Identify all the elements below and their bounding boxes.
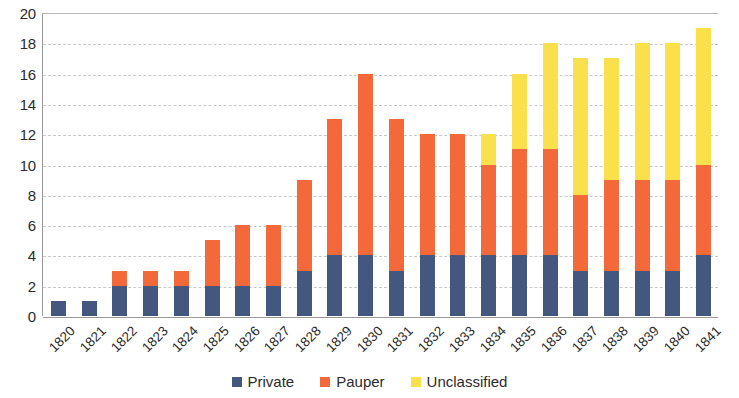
legend-item[interactable]: Private <box>232 374 295 389</box>
bar-segment-pauper <box>543 149 558 255</box>
bar-segment-pauper <box>420 134 435 255</box>
legend-item[interactable]: Pauper <box>320 374 384 389</box>
y-tick-label: 8 <box>2 187 36 202</box>
bar-segment-unclassified <box>604 58 619 179</box>
bar-segment-pauper <box>665 180 680 271</box>
bar-segment-pauper <box>635 180 650 271</box>
bar-column[interactable] <box>543 43 558 316</box>
bar-column[interactable] <box>665 43 680 316</box>
bar-segment-pauper <box>205 240 220 285</box>
bar-column[interactable] <box>297 180 312 316</box>
plot-area <box>42 13 718 316</box>
bar-segment-private <box>143 286 158 316</box>
bar-segment-unclassified <box>573 58 588 194</box>
bar-segment-unclassified <box>635 43 650 179</box>
bar-segment-pauper <box>573 195 588 271</box>
x-tick-label: 1829 <box>324 324 355 355</box>
y-tick-label: 6 <box>2 218 36 233</box>
bar-column[interactable] <box>450 134 465 316</box>
bar-segment-pauper <box>512 149 527 255</box>
x-tick-label: 1837 <box>569 324 600 355</box>
bar-segment-private <box>604 271 619 316</box>
bar-segment-unclassified <box>665 43 680 179</box>
x-tick-label: 1825 <box>201 324 232 355</box>
bar-column[interactable] <box>573 58 588 316</box>
x-tick-label: 1820 <box>47 324 78 355</box>
bar-segment-pauper <box>297 180 312 271</box>
x-axis: 1820182118221823182418251826182718281829… <box>42 316 718 376</box>
bar-segment-private <box>297 271 312 316</box>
bar-segment-private <box>543 255 558 316</box>
legend-label: Private <box>248 374 295 389</box>
bar-column[interactable] <box>266 225 281 316</box>
bar-segment-pauper <box>112 271 127 286</box>
bar-column[interactable] <box>635 43 650 316</box>
bar-segment-private <box>512 255 527 316</box>
bar-column[interactable] <box>174 271 189 316</box>
x-tick-label: 1822 <box>109 324 140 355</box>
bar-segment-pauper <box>174 271 189 286</box>
x-tick-label: 1830 <box>354 324 385 355</box>
legend-swatch-icon <box>320 377 330 387</box>
y-tick-label: 18 <box>2 36 36 51</box>
x-tick-label: 1836 <box>539 324 570 355</box>
legend-label: Unclassified <box>427 374 508 389</box>
bar-segment-private <box>635 271 650 316</box>
legend-swatch-icon <box>232 377 242 387</box>
bar-segment-private <box>327 255 342 316</box>
bar-column[interactable] <box>512 74 527 316</box>
bar-segment-unclassified <box>696 28 711 164</box>
bar-segment-pauper <box>389 119 404 271</box>
bar-segment-pauper <box>266 225 281 286</box>
y-tick-label: 0 <box>2 309 36 324</box>
legend-item[interactable]: Unclassified <box>411 374 508 389</box>
x-tick-label: 1834 <box>477 324 508 355</box>
bar-column[interactable] <box>420 134 435 316</box>
y-axis: 20181614121086420 <box>0 13 36 316</box>
bar-column[interactable] <box>389 119 404 316</box>
bar-column[interactable] <box>51 301 66 316</box>
x-tick-label: 1839 <box>631 324 662 355</box>
bar-segment-pauper <box>481 165 496 256</box>
x-tick-label: 1826 <box>231 324 262 355</box>
x-tick-label: 1835 <box>508 324 539 355</box>
bar-column[interactable] <box>143 271 158 316</box>
bar-segment-unclassified <box>481 134 496 164</box>
bar-segment-private <box>420 255 435 316</box>
y-tick-label: 16 <box>2 66 36 81</box>
x-tick-label: 1821 <box>78 324 109 355</box>
bar-column[interactable] <box>358 74 373 316</box>
x-tick-label: 1833 <box>447 324 478 355</box>
bar-column[interactable] <box>205 240 220 316</box>
bars-layer <box>43 14 718 316</box>
bar-column[interactable] <box>235 225 250 316</box>
bar-segment-private <box>51 301 66 316</box>
bar-segment-private <box>205 286 220 316</box>
bar-segment-pauper <box>604 180 619 271</box>
bar-segment-pauper <box>327 119 342 255</box>
bar-segment-private <box>235 286 250 316</box>
y-tick-label: 10 <box>2 157 36 172</box>
bar-segment-pauper <box>143 271 158 286</box>
x-tick-label: 1831 <box>385 324 416 355</box>
bar-segment-pauper <box>235 225 250 286</box>
bar-column[interactable] <box>604 58 619 316</box>
bar-column[interactable] <box>481 134 496 316</box>
bar-column[interactable] <box>82 301 97 316</box>
y-tick-label: 12 <box>2 127 36 142</box>
bar-segment-private <box>481 255 496 316</box>
bar-column[interactable] <box>696 28 711 316</box>
bar-segment-private <box>389 271 404 316</box>
bar-column[interactable] <box>112 271 127 316</box>
x-tick-label: 1838 <box>600 324 631 355</box>
y-tick-label: 2 <box>2 278 36 293</box>
chart-legend: PrivatePauperUnclassified <box>0 374 739 389</box>
bar-segment-unclassified <box>543 43 558 149</box>
x-tick-label: 1827 <box>262 324 293 355</box>
x-tick-label: 1828 <box>293 324 324 355</box>
bar-column[interactable] <box>327 119 342 316</box>
legend-label: Pauper <box>336 374 384 389</box>
y-tick-label: 14 <box>2 96 36 111</box>
x-tick-label: 1832 <box>416 324 447 355</box>
y-tick-label: 20 <box>2 6 36 21</box>
